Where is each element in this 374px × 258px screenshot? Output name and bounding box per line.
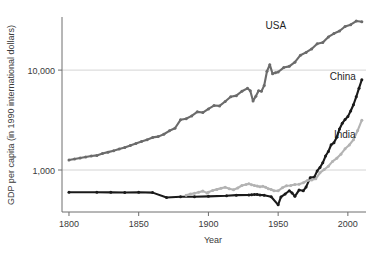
data-point	[302, 189, 305, 192]
series-label-usa: USA	[266, 20, 287, 31]
data-point	[291, 191, 294, 194]
data-point	[277, 71, 280, 74]
data-point	[277, 203, 280, 206]
data-point	[293, 195, 296, 198]
data-point	[323, 168, 326, 171]
data-point	[137, 191, 140, 194]
data-point	[224, 100, 227, 103]
data-point	[107, 151, 110, 154]
data-point	[310, 178, 313, 181]
data-point	[129, 144, 132, 147]
data-point	[225, 194, 228, 197]
data-point	[355, 20, 358, 23]
series-markers	[67, 20, 363, 207]
data-point	[140, 140, 143, 143]
data-point	[316, 42, 319, 45]
data-point	[318, 166, 321, 169]
data-point	[252, 100, 255, 103]
data-point	[259, 185, 262, 188]
data-point	[215, 188, 218, 191]
data-point	[261, 185, 264, 188]
data-point	[193, 195, 196, 198]
data-point	[360, 119, 363, 122]
data-point	[250, 183, 253, 186]
data-point	[270, 188, 273, 191]
data-point	[197, 191, 200, 194]
data-point	[236, 186, 239, 189]
data-point	[299, 54, 302, 57]
data-point	[134, 142, 137, 145]
y-tick-labels: 1,00010,000	[27, 66, 55, 176]
data-point	[263, 84, 266, 87]
data-point	[213, 104, 216, 107]
data-point	[185, 194, 188, 197]
data-point	[73, 157, 76, 160]
data-point	[321, 41, 324, 44]
data-point	[332, 141, 335, 144]
data-point	[232, 188, 235, 191]
x-axis-title: Year	[204, 235, 222, 245]
data-point	[348, 143, 351, 146]
data-point	[218, 104, 221, 107]
data-point	[279, 195, 282, 198]
y-tick-marks	[58, 70, 62, 170]
data-point	[305, 51, 308, 54]
series-lines	[69, 21, 362, 205]
series-label-india: India	[334, 129, 356, 140]
data-point	[95, 154, 98, 157]
data-point	[260, 90, 263, 93]
data-point	[264, 186, 267, 189]
data-point	[327, 150, 330, 153]
data-point	[151, 191, 154, 194]
series-line-usa	[69, 21, 362, 160]
data-point	[330, 143, 333, 146]
x-tick-label: 1800	[59, 219, 79, 229]
data-point	[355, 95, 358, 98]
data-point	[360, 20, 363, 23]
data-point	[321, 161, 324, 164]
x-tick-label: 1850	[129, 219, 149, 229]
x-tick-label: 1950	[268, 219, 288, 229]
data-point	[288, 65, 291, 68]
data-point	[245, 183, 248, 186]
data-point	[282, 66, 285, 69]
y-tick-label: 1,000	[32, 166, 55, 176]
data-point	[207, 195, 210, 198]
data-point	[335, 157, 338, 160]
data-point	[190, 114, 193, 117]
data-point	[270, 195, 273, 198]
data-point	[274, 71, 277, 74]
data-point	[207, 191, 210, 194]
data-point	[341, 122, 344, 125]
data-point	[356, 129, 359, 132]
data-point	[284, 193, 287, 196]
data-point	[289, 184, 292, 187]
data-point	[228, 187, 231, 190]
data-point	[298, 183, 301, 186]
data-point	[349, 23, 352, 26]
data-point	[196, 110, 199, 113]
data-point	[344, 118, 347, 121]
data-point	[327, 35, 330, 38]
data-point	[240, 184, 243, 187]
data-point	[235, 94, 238, 97]
data-point	[277, 189, 280, 192]
data-point	[332, 32, 335, 35]
data-point	[302, 181, 305, 184]
data-point	[84, 155, 87, 158]
data-point	[224, 186, 227, 189]
y-axis-title: GDP per capita (in 1990 international do…	[6, 25, 16, 205]
data-point	[257, 89, 260, 92]
data-point	[101, 152, 104, 155]
x-tick-label: 1900	[198, 219, 218, 229]
data-point	[349, 109, 352, 112]
data-point	[256, 193, 259, 196]
data-point	[281, 186, 284, 189]
gdp-per-capita-chart: 18001850190019502000 1,00010,000 USAChin…	[0, 0, 374, 258]
data-point	[360, 78, 363, 81]
data-point	[298, 189, 301, 192]
data-point	[168, 129, 171, 132]
data-point	[268, 63, 271, 66]
data-point	[118, 148, 121, 151]
data-point	[189, 193, 192, 196]
